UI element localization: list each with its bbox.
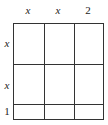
row-label-2: x [2, 80, 12, 91]
column-label-2: x [43, 5, 73, 16]
column-label-1: x [13, 5, 43, 16]
column-label-3: 2 [73, 5, 103, 16]
row-label-1: x [2, 38, 12, 49]
row-label-3: 1 [2, 106, 12, 117]
grid-horizontal-divider-1 [14, 64, 103, 65]
grid-horizontal-divider-2 [14, 104, 103, 105]
area-grid [13, 23, 104, 120]
